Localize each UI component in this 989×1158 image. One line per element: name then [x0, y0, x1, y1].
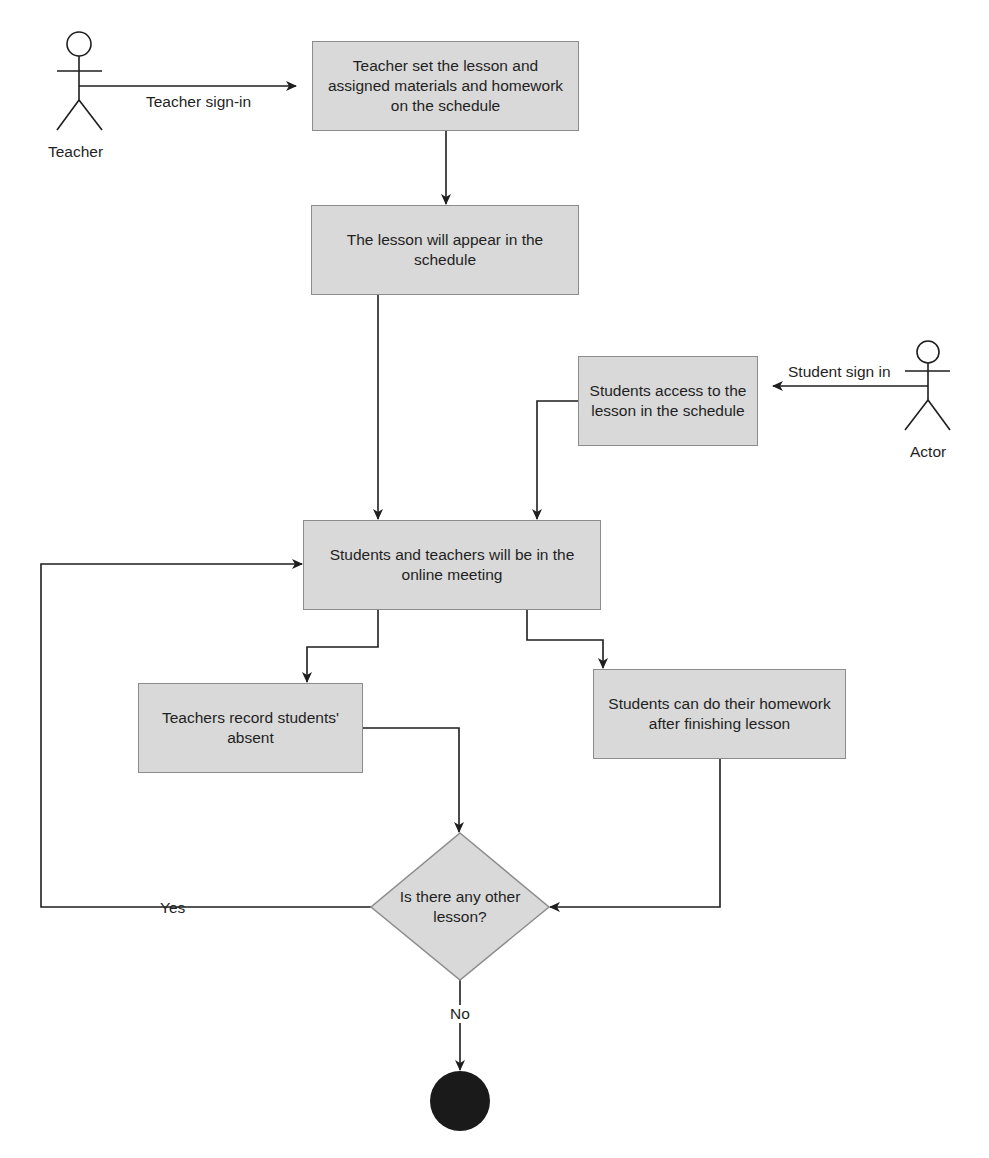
teacher-signin-label: Teacher sign-in	[146, 93, 251, 111]
teacher-actor-icon	[57, 32, 102, 130]
node-do-homework: Students can do their homework after fin…	[593, 669, 846, 759]
edge-n3-n4	[537, 401, 578, 519]
node-text: Students and teachers will be in the onl…	[314, 545, 590, 585]
student-signin-label: Student sign in	[787, 363, 892, 381]
decision-text: Is there any other lesson?	[385, 887, 535, 927]
node-students-access: Students access to the lesson in the sch…	[578, 356, 758, 446]
final-node-icon	[430, 1071, 490, 1131]
teacher-actor-label: Teacher	[48, 143, 103, 161]
student-actor-label: Actor	[910, 443, 946, 461]
node-text: Teacher set the lesson and assigned mate…	[323, 56, 568, 116]
no-label: No	[449, 1005, 471, 1023]
activity-diagram: Teacher Actor Teacher sign-in Student si…	[0, 0, 989, 1158]
node-teacher-set-lesson: Teacher set the lesson and assigned mate…	[312, 41, 579, 131]
node-online-meeting: Students and teachers will be in the onl…	[303, 520, 601, 610]
node-text: The lesson will appear in the schedule	[322, 230, 568, 270]
node-text: Students can do their homework after fin…	[604, 694, 835, 734]
node-lesson-appears: The lesson will appear in the schedule	[311, 205, 579, 295]
node-text: Students access to the lesson in the sch…	[589, 381, 747, 421]
edge-n6-d1	[550, 759, 720, 907]
node-text: Teachers record students' absent	[149, 708, 352, 748]
node-record-absent: Teachers record students' absent	[138, 683, 363, 773]
yes-label: Yes	[160, 899, 185, 917]
edge-n5-d1	[362, 728, 459, 832]
edge-n4-n6	[527, 610, 603, 668]
edge-n4-n5	[307, 610, 378, 682]
